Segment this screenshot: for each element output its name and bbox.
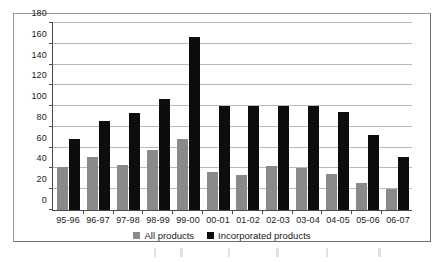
bar-group [322, 23, 352, 210]
x-axis-tick [381, 210, 382, 214]
bar-incorporated-products [278, 106, 289, 210]
x-axis-tick [232, 210, 233, 214]
y-axis-label: 100 [31, 91, 47, 101]
x-axis-label: 04-05 [323, 215, 353, 225]
x-axis-tick [262, 210, 263, 214]
x-axis-tick [321, 210, 322, 214]
y-axis-tick [49, 209, 53, 210]
bar-all-products [147, 150, 158, 210]
bar-all-products [177, 139, 188, 210]
legend-swatch-icon [133, 232, 140, 239]
y-axis-label: 180 [31, 8, 47, 18]
bar-all-products [117, 165, 128, 210]
bar-incorporated-products [189, 37, 200, 210]
bar-group [382, 23, 412, 210]
bar-incorporated-products [308, 106, 319, 210]
bar-incorporated-products [69, 139, 80, 210]
bar-group [114, 23, 144, 210]
bar-all-products [57, 167, 68, 210]
chart-legend: All productsIncorporated products [14, 230, 430, 241]
bar-group [143, 23, 173, 210]
x-axis-tick [142, 210, 143, 214]
bar-all-products [326, 174, 337, 210]
bar-all-products [266, 166, 277, 210]
bar-group [352, 23, 382, 210]
chart-screenshot: 020406080100120140160180 95-9696-9797-98… [0, 0, 445, 262]
x-axis-label: 01-02 [233, 215, 263, 225]
bar-all-products [296, 168, 307, 210]
bar-group [263, 23, 293, 210]
y-axis-tick [49, 147, 53, 148]
y-axis-tick [49, 126, 53, 127]
y-axis-tick [49, 188, 53, 189]
bar-group [173, 23, 203, 210]
legend-item: Incorporated products [207, 230, 310, 241]
bar-all-products [236, 175, 247, 210]
y-axis-label: 40 [37, 153, 47, 163]
x-axis-label: 97-98 [113, 215, 143, 225]
bar-group [293, 23, 323, 210]
x-axis-label: 03-04 [293, 215, 323, 225]
x-axis-tick [172, 210, 173, 214]
y-axis-tick [49, 22, 53, 23]
legend-label: All products [144, 230, 194, 241]
bar-incorporated-products [219, 106, 230, 210]
bar-incorporated-products [99, 121, 110, 210]
x-axis-tick [83, 210, 84, 214]
x-axis-tick [292, 210, 293, 214]
x-axis-label: 02-03 [263, 215, 293, 225]
y-axis-label: 0 [42, 195, 47, 205]
x-axis-label: 05-06 [353, 215, 383, 225]
x-axis-label: 95-96 [53, 215, 83, 225]
x-axis-tick [202, 210, 203, 214]
plot-area: 020406080100120140160180 [52, 23, 412, 211]
x-axis-label: 96-97 [83, 215, 113, 225]
bar-incorporated-products [248, 106, 259, 210]
legend-item: All products [133, 230, 194, 241]
bar-group [84, 23, 114, 210]
legend-label: Incorporated products [218, 230, 310, 241]
x-axis-tick [113, 210, 114, 214]
y-axis-label: 140 [31, 50, 47, 60]
legend-swatch-icon [207, 232, 214, 239]
y-axis-tick [49, 105, 53, 106]
chart-figure-frame: 020406080100120140160180 95-9696-9797-98… [13, 13, 431, 242]
x-axis-label: 06-07 [383, 215, 413, 225]
y-axis-tick [49, 167, 53, 168]
bar-incorporated-products [129, 113, 140, 210]
x-axis-label: 98-99 [143, 215, 173, 225]
bar-all-products [87, 157, 98, 210]
y-axis-tick [49, 43, 53, 44]
bar-incorporated-products [368, 135, 379, 210]
y-axis-label: 120 [31, 70, 47, 80]
bar-group [54, 23, 84, 210]
x-axis-labels: 95-9696-9797-9898-9999-0000-0101-0202-03… [53, 215, 413, 225]
x-axis-tick [351, 210, 352, 214]
y-axis-label: 80 [37, 112, 47, 122]
bar-incorporated-products [159, 99, 170, 210]
bar-groups [54, 23, 412, 210]
bar-all-products [356, 183, 367, 210]
bar-all-products [386, 189, 397, 210]
bar-incorporated-products [398, 157, 409, 210]
y-axis-tick [49, 84, 53, 85]
y-axis-label: 60 [37, 133, 47, 143]
x-axis-label: 00-01 [203, 215, 233, 225]
bar-all-products [207, 172, 218, 210]
bar-group [233, 23, 263, 210]
bar-incorporated-products [338, 112, 349, 210]
y-axis-label: 20 [37, 174, 47, 184]
x-axis-label: 99-00 [173, 215, 203, 225]
scan-artifact [150, 248, 435, 257]
y-axis-tick [49, 64, 53, 65]
bar-group [203, 23, 233, 210]
y-axis-label: 160 [31, 29, 47, 39]
